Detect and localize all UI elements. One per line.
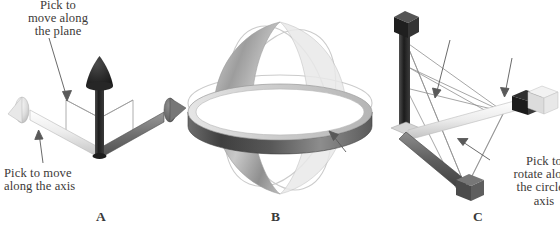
- z-axis-cone-tip-icon: [8, 97, 22, 123]
- y-axis-cone-base-icon: [86, 82, 113, 91]
- y-axis-cube-handle-icon[interactable]: [394, 11, 419, 38]
- axis-leader-line: [35, 130, 43, 163]
- x-axis-handle[interactable]: [100, 98, 186, 158]
- plane-leader-line: [49, 38, 72, 101]
- horizontal-rotation-band[interactable]: [188, 84, 372, 154]
- panel-rotate-gizmo: Pick to rotate along the circle's axis: [178, 0, 383, 239]
- gizmo-origin-icon: [93, 153, 107, 159]
- caption-panel-b: B: [271, 209, 280, 225]
- label-pick-to-move-along-the-axis: Pick to move along the axis: [4, 167, 108, 193]
- z-axis-handle[interactable]: [8, 97, 100, 158]
- panel-scale-gizmo: Pick to uniformly scale Pick to scale al…: [372, 0, 560, 239]
- caption-panel-a: A: [96, 209, 106, 225]
- x-axis-cube-outer-icon[interactable]: [528, 86, 558, 114]
- gizmo-figure: Pick to move along the plane Pick to mov…: [0, 0, 560, 239]
- scale-gizmo-graphic: [372, 0, 560, 239]
- rotate-gizmo-graphic: [178, 0, 383, 239]
- z-axis-scale-handle[interactable]: [399, 132, 484, 201]
- caption-panel-c: C: [473, 209, 483, 225]
- label-pick-to-move-along-the-plane: Pick to move along the plane: [19, 0, 97, 39]
- axis-scale-leader-line: [501, 58, 513, 97]
- panel-translate-gizmo: Pick to move along the plane Pick to mov…: [0, 0, 190, 239]
- y-axis-scale-handle[interactable]: [391, 11, 420, 134]
